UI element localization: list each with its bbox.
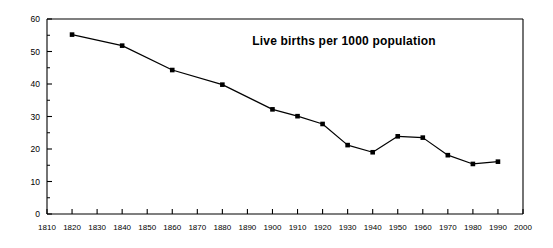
- y-axis-tick-label: 0: [35, 209, 40, 219]
- x-axis-tick-label: 1900: [264, 223, 282, 232]
- data-point-marker: [395, 134, 400, 139]
- data-point-marker: [370, 150, 375, 155]
- y-axis-tick-label: 60: [31, 14, 41, 24]
- x-axis-tick-label: 1930: [339, 223, 357, 232]
- x-axis-tick-label: 1810: [38, 223, 56, 232]
- data-point-marker: [320, 122, 325, 127]
- data-point-marker: [496, 159, 501, 164]
- y-axis-tick-label: 10: [31, 177, 41, 187]
- data-point-marker: [170, 68, 175, 73]
- x-axis-tick-label: 1840: [113, 223, 131, 232]
- x-axis-tick-label: 1950: [389, 223, 407, 232]
- y-axis-tick-label: 50: [31, 47, 41, 57]
- chart-figure: 0102030405060 18101820183018401850186018…: [0, 0, 553, 248]
- x-axis-tick-label: 1920: [314, 223, 332, 232]
- data-point-marker: [270, 107, 275, 112]
- data-point-marker: [471, 162, 476, 167]
- x-axis-tick-label: 1870: [188, 223, 206, 232]
- x-axis-tick-label: 1980: [464, 223, 482, 232]
- x-axis-tick-label: 1830: [88, 223, 106, 232]
- x-axis-tick-label: 2000: [514, 223, 532, 232]
- y-axis-tick-label: 30: [31, 112, 41, 122]
- x-axis-tick-label: 1880: [213, 223, 231, 232]
- x-axis-tick-label: 1960: [414, 223, 432, 232]
- data-point-marker: [295, 114, 300, 119]
- data-point-marker: [120, 43, 125, 48]
- x-axis-tick-label: 1820: [63, 223, 81, 232]
- x-axis-tick-label: 1940: [364, 223, 382, 232]
- x-axis-tick-label: 1910: [289, 223, 307, 232]
- x-axis-tick-label: 1890: [239, 223, 257, 232]
- x-axis-tick-label: 1850: [138, 223, 156, 232]
- y-axis-tick-label: 20: [31, 144, 41, 154]
- x-axis-tick-label: 1990: [489, 223, 507, 232]
- y-axis-tick-label: 40: [31, 79, 41, 89]
- data-point-marker: [446, 153, 451, 158]
- data-point-marker: [70, 32, 75, 37]
- data-point-marker: [420, 135, 425, 140]
- data-point-marker: [345, 143, 350, 148]
- chart-title: Live births per 1000 population: [252, 34, 436, 48]
- x-axis-tick-label: 1970: [439, 223, 457, 232]
- data-point-marker: [220, 82, 225, 87]
- x-axis-tick-label: 1860: [163, 223, 181, 232]
- line-chart: 0102030405060 18101820183018401850186018…: [0, 0, 553, 248]
